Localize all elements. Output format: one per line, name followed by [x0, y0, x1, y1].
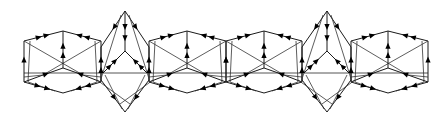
- arrowhead-icon: [44, 85, 50, 90]
- arrowhead-icon: [184, 52, 189, 58]
- arrowhead-icon: [360, 83, 366, 88]
- hex-diagonal: [24, 41, 83, 75]
- hex-diagonal: [167, 41, 226, 75]
- hex-edge: [63, 31, 101, 41]
- hex-edge: [351, 31, 388, 41]
- hex-diagonal: [368, 41, 428, 75]
- diamond-inner-edge: [331, 15, 352, 82]
- hex-diagonal: [149, 41, 207, 75]
- arrowhead-icon: [334, 23, 339, 29]
- arrowhead-icon: [122, 24, 127, 30]
- arrowhead-icon: [159, 83, 165, 88]
- hex-edge: [195, 82, 222, 91]
- arrowhead-icon: [367, 72, 374, 77]
- hex-diagonal: [226, 41, 284, 75]
- arrowhead-icon: [276, 85, 282, 90]
- arrowhead-icon: [75, 85, 81, 90]
- arrowhead-icon: [243, 72, 250, 77]
- arrowhead-icon: [324, 24, 329, 30]
- arrowhead-icon: [286, 83, 292, 88]
- diamond-inner-edge: [322, 80, 355, 104]
- arrowhead-icon: [402, 33, 408, 38]
- arrowhead-icon: [21, 56, 26, 62]
- arrowhead-icon: [324, 35, 329, 41]
- arrowhead-icon: [245, 85, 251, 90]
- hex-inner-edge: [296, 41, 298, 82]
- hex-edge: [396, 82, 424, 91]
- hex-edge: [388, 31, 428, 41]
- hex-edge: [28, 82, 55, 91]
- arrowhead-icon: [122, 35, 127, 41]
- hex-inner-edge: [422, 41, 424, 82]
- arrowhead-icon: [385, 43, 390, 49]
- arrowhead-icon: [166, 72, 173, 77]
- hex-edge: [149, 31, 187, 41]
- arrowhead-icon: [35, 35, 41, 40]
- arrowhead-icon: [261, 43, 266, 49]
- arrowhead-icon: [146, 56, 151, 62]
- arrowhead-icon: [113, 23, 118, 29]
- hex-edge: [24, 31, 63, 41]
- hex-inner-edge: [153, 41, 155, 82]
- arrowhead-icon: [208, 35, 214, 40]
- diamond-inner-edge: [120, 80, 153, 104]
- hex-inner-edge: [220, 41, 222, 82]
- hex-edge: [272, 82, 298, 91]
- arrowhead-icons: [21, 23, 430, 100]
- arrowhead-icon: [146, 67, 151, 73]
- arrowhead-icon: [200, 33, 206, 38]
- hex-diagonal: [43, 41, 101, 75]
- arrowhead-icon: [77, 72, 84, 77]
- arrowhead-icon: [223, 56, 228, 62]
- hex-inner-edge: [355, 41, 357, 82]
- arrowhead-icon: [43, 33, 49, 38]
- hex-edge: [71, 82, 97, 91]
- hex-inner-edge: [28, 41, 30, 82]
- arrowhead-icon: [34, 83, 40, 88]
- directed-graph-diagram: [0, 0, 448, 124]
- hex-edge: [153, 82, 179, 91]
- hex-inner-edge: [230, 41, 232, 82]
- arrowhead-icon: [385, 52, 390, 58]
- hex-edge: [230, 82, 256, 91]
- arrowhead-icon: [60, 52, 65, 58]
- arrowhead-icon: [278, 72, 285, 77]
- arrowhead-icon: [42, 72, 49, 77]
- arrowhead-icon: [60, 43, 65, 49]
- arrowhead-icon: [425, 56, 430, 62]
- arrowhead-icon: [200, 85, 206, 90]
- arrowhead-icon: [299, 67, 304, 73]
- arrowhead-icon: [402, 72, 409, 77]
- arrowhead-icon: [98, 67, 103, 73]
- arrowhead-icon: [410, 35, 416, 40]
- arrowhead-icon: [236, 83, 242, 88]
- hex-edge: [226, 31, 264, 41]
- arrowhead-icon: [348, 56, 353, 62]
- arrowhead-icon: [184, 43, 189, 49]
- arrowhead-icon: [98, 56, 103, 62]
- arrowhead-icon: [85, 83, 91, 88]
- hex-edge: [264, 31, 302, 41]
- arrowhead-icon: [132, 23, 137, 29]
- arrowhead-icon: [299, 56, 304, 62]
- arrowhead-icon: [348, 67, 353, 73]
- hex-edge: [355, 82, 380, 91]
- diamond-inner-edge: [129, 15, 150, 82]
- arrowhead-icon: [370, 85, 376, 90]
- arrowhead-icon: [209, 83, 215, 88]
- hex-edge: [187, 31, 226, 41]
- hex-diagonal: [244, 41, 302, 75]
- hex-diagonal: [351, 41, 408, 75]
- arrowhead-icon: [261, 52, 266, 58]
- hex-inner-edge: [95, 41, 97, 82]
- diamond-inner-edge: [301, 15, 323, 82]
- arrowhead-icon: [168, 85, 174, 90]
- diamond-inner-edge: [100, 15, 121, 82]
- arrowhead-icon: [201, 72, 208, 77]
